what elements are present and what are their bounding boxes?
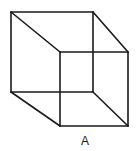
cube-edge-connector-tl: [11, 12, 60, 52]
necker-cube-drawing: [0, 0, 137, 151]
cube-edge-connector-bl: [11, 92, 60, 126]
figure-label: A: [81, 135, 89, 147]
cube-edge-connector-tr: [93, 12, 128, 52]
cube-edge-connector-br: [93, 92, 128, 126]
